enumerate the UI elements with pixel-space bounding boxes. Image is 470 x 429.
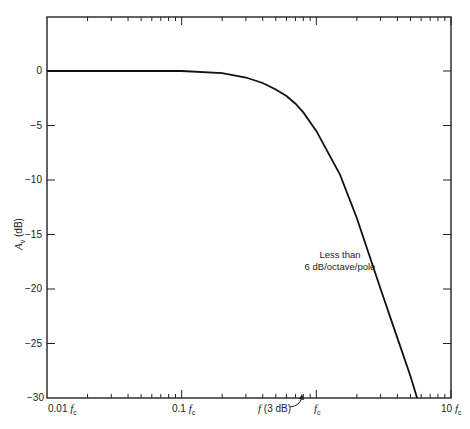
y-tick-minus15: −15 (12, 229, 42, 240)
chart-canvas (0, 0, 470, 429)
x-tick-0.1fc: 0.1 fc (172, 402, 195, 416)
f3db-label: f (3 dB) (258, 402, 291, 414)
axis-ticks (47, 17, 451, 398)
y-tick-minus10: −10 (12, 174, 42, 185)
plot-frame (47, 17, 451, 398)
x-tick-10fc: 10 fc (441, 402, 461, 416)
y-tick-minus25: −25 (12, 338, 42, 349)
y-tick-minus30: −30 (14, 392, 44, 403)
x-tick-0.01fc: 0.01 fc (48, 402, 77, 416)
x-tick-fc: fc (314, 402, 321, 416)
slope-annotation: Less than6 dB/octave/pole (293, 249, 387, 273)
y-tick-minus5: −5 (12, 120, 42, 131)
response-curve (47, 71, 417, 398)
y-tick-0: 0 (12, 65, 42, 76)
y-tick-minus20: −20 (12, 283, 42, 294)
